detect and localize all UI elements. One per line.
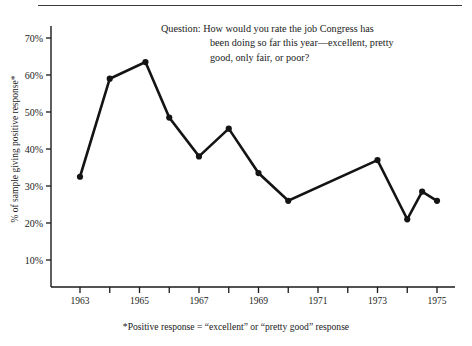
- data-point-marker: [142, 59, 148, 65]
- data-point-marker: [255, 170, 261, 176]
- data-series-group: [77, 59, 440, 222]
- question-line-3: good, only fair, or poor?: [161, 51, 421, 65]
- data-point-marker: [166, 114, 172, 120]
- y-tick-label: 30%: [25, 181, 43, 192]
- data-point-marker: [226, 126, 232, 132]
- y-tick-label: 20%: [25, 218, 43, 229]
- x-tick-label: 1967: [190, 296, 209, 306]
- x-tick-label: 1975: [428, 296, 447, 306]
- x-axis: 1963196519671969197119731975: [51, 287, 455, 306]
- x-tick-label: 1971: [309, 296, 328, 306]
- data-point-marker: [419, 188, 425, 194]
- x-tick-label: 1969: [249, 296, 268, 306]
- x-tick-label: 1963: [71, 296, 90, 306]
- data-point-marker: [404, 216, 410, 222]
- footnote-text: *Positive response = “excellent” or “pre…: [0, 321, 472, 332]
- y-tick-label: 70%: [25, 33, 43, 44]
- y-axis-title-text: % of sample giving positive response*: [10, 75, 20, 222]
- data-point-marker: [77, 174, 83, 180]
- series-polyline: [80, 62, 437, 219]
- y-tick-label: 60%: [25, 70, 43, 81]
- data-point-marker: [434, 198, 440, 204]
- data-point-marker: [107, 76, 113, 82]
- y-tick-label: 50%: [25, 107, 43, 118]
- x-tick-label: 1965: [130, 296, 149, 306]
- y-axis: 10%20%30%40%50%60%70%: [25, 26, 51, 287]
- y-axis-title: % of sample giving positive response*: [10, 75, 20, 222]
- data-point-marker: [196, 153, 202, 159]
- question-text-block: Question: How would you rate the job Con…: [161, 22, 421, 65]
- question-line-2: been doing so far this year—excellent, p…: [161, 36, 421, 50]
- y-tick-label: 10%: [25, 255, 43, 266]
- y-tick-label: 40%: [25, 144, 43, 155]
- question-line-1: Question: How would you rate the job Con…: [161, 22, 421, 36]
- data-point-marker: [374, 157, 380, 163]
- data-point-marker: [285, 198, 291, 204]
- x-tick-label: 1973: [368, 296, 387, 306]
